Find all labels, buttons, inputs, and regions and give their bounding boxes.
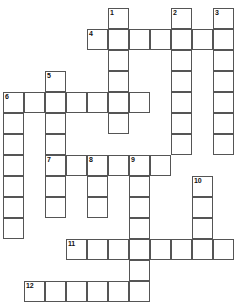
crossword-cell[interactable]: 12 xyxy=(24,281,45,302)
cell-number-11: 11 xyxy=(68,240,75,248)
crossword-cell[interactable] xyxy=(192,197,213,218)
crossword-cell[interactable] xyxy=(213,239,234,260)
crossword-cell[interactable] xyxy=(87,197,108,218)
crossword-cell[interactable] xyxy=(108,29,129,50)
cell-number-10: 10 xyxy=(194,177,201,185)
crossword-cell[interactable]: 9 xyxy=(129,155,150,176)
crossword-cell[interactable] xyxy=(45,134,66,155)
crossword-cell[interactable] xyxy=(87,281,108,302)
crossword-cell[interactable] xyxy=(192,218,213,239)
crossword-cell[interactable] xyxy=(129,281,150,302)
cell-number-3: 3 xyxy=(215,9,219,17)
cell-number-2: 2 xyxy=(173,9,177,17)
crossword-cell[interactable] xyxy=(108,155,129,176)
crossword-cell[interactable] xyxy=(108,239,129,260)
crossword-cell[interactable] xyxy=(108,50,129,71)
crossword-cell[interactable] xyxy=(45,281,66,302)
crossword-cell[interactable] xyxy=(108,71,129,92)
crossword-cell[interactable] xyxy=(3,134,24,155)
cell-number-8: 8 xyxy=(89,156,93,164)
crossword-cell[interactable] xyxy=(66,155,87,176)
crossword-cell[interactable]: 5 xyxy=(45,71,66,92)
crossword-cell[interactable] xyxy=(45,113,66,134)
crossword-cell[interactable] xyxy=(213,71,234,92)
crossword-cell[interactable] xyxy=(192,29,213,50)
crossword-cell[interactable] xyxy=(24,92,45,113)
crossword-cell[interactable] xyxy=(150,29,171,50)
cell-number-4: 4 xyxy=(89,30,93,38)
crossword-cell[interactable] xyxy=(150,155,171,176)
crossword-cell[interactable] xyxy=(213,29,234,50)
crossword-cell[interactable] xyxy=(171,29,192,50)
crossword-cell[interactable]: 8 xyxy=(87,155,108,176)
crossword-cell[interactable] xyxy=(129,218,150,239)
crossword-cell[interactable] xyxy=(3,113,24,134)
crossword-cell[interactable] xyxy=(45,197,66,218)
crossword-cell[interactable] xyxy=(171,92,192,113)
crossword-cell[interactable] xyxy=(45,92,66,113)
crossword-cell[interactable]: 6 xyxy=(3,92,24,113)
crossword-cell[interactable] xyxy=(150,239,171,260)
cell-number-1: 1 xyxy=(110,9,114,17)
crossword-cell[interactable] xyxy=(129,197,150,218)
cell-number-6: 6 xyxy=(5,93,9,101)
crossword-cell[interactable] xyxy=(3,155,24,176)
crossword-cell[interactable] xyxy=(87,176,108,197)
crossword-cell[interactable] xyxy=(108,113,129,134)
cell-number-12: 12 xyxy=(26,282,33,290)
crossword-cell[interactable] xyxy=(129,239,150,260)
crossword-cell[interactable] xyxy=(108,92,129,113)
crossword-cell[interactable]: 4 xyxy=(87,29,108,50)
crossword-cell[interactable] xyxy=(129,92,150,113)
cell-number-9: 9 xyxy=(131,156,135,164)
crossword-cell[interactable] xyxy=(213,50,234,71)
crossword-cell[interactable] xyxy=(213,134,234,155)
crossword-cell[interactable] xyxy=(3,197,24,218)
cell-number-5: 5 xyxy=(47,72,51,80)
crossword-cell[interactable] xyxy=(87,239,108,260)
crossword-cell[interactable] xyxy=(66,92,87,113)
crossword-cell[interactable] xyxy=(171,71,192,92)
crossword-cell[interactable] xyxy=(192,239,213,260)
crossword-cell[interactable] xyxy=(66,281,87,302)
crossword-cell[interactable] xyxy=(213,92,234,113)
crossword-cell[interactable] xyxy=(171,113,192,134)
crossword-cell[interactable]: 2 xyxy=(171,8,192,29)
cell-number-7: 7 xyxy=(47,156,51,164)
crossword-cell[interactable] xyxy=(87,92,108,113)
crossword-cell[interactable] xyxy=(45,176,66,197)
crossword-cell[interactable] xyxy=(129,176,150,197)
crossword-cell[interactable]: 1 xyxy=(108,8,129,29)
crossword-cell[interactable] xyxy=(108,281,129,302)
crossword-cell[interactable] xyxy=(171,134,192,155)
crossword-cell[interactable]: 7 xyxy=(45,155,66,176)
crossword-cell[interactable] xyxy=(213,113,234,134)
crossword-cell[interactable]: 11 xyxy=(66,239,87,260)
crossword-cell[interactable] xyxy=(129,29,150,50)
crossword-cell[interactable] xyxy=(129,260,150,281)
crossword-cell[interactable] xyxy=(3,218,24,239)
crossword-cell[interactable] xyxy=(3,176,24,197)
crossword-cell[interactable]: 3 xyxy=(213,8,234,29)
crossword-cell[interactable] xyxy=(171,50,192,71)
crossword-cell[interactable]: 10 xyxy=(192,176,213,197)
crossword-cell[interactable] xyxy=(171,239,192,260)
